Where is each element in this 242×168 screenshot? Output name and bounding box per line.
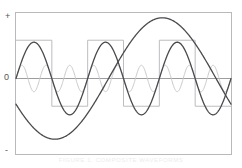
axis-label-negative: -: [5, 146, 8, 155]
figure-caption: FIGURE 1. COMPOSITE WAVEFORMS: [0, 157, 242, 163]
axis-label-positive: +: [5, 12, 10, 21]
waveform-plot: [0, 0, 242, 168]
axis-label-zero: 0: [4, 73, 9, 82]
waveform-figure: + 0 - FIGURE 1. COMPOSITE WAVEFORMS: [0, 0, 242, 168]
